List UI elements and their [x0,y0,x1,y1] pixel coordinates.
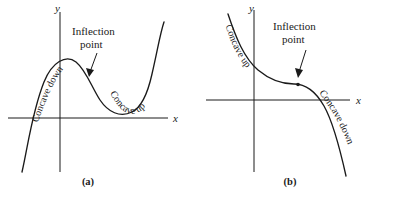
panel-a: x y Inflection point Concave down Concav… [0,0,197,199]
inflection-label-a-line2: point [80,38,103,50]
x-axis-label-a: x [172,112,178,124]
inflection-leader-a [90,53,97,72]
inflection-point-marker-b [296,83,300,87]
x-axis-label-b: x [355,94,361,106]
inflection-label-a-line1: Inflection [72,25,115,37]
panel-b: x y Inflection point Concave up Concave … [198,0,395,199]
inflection-label-b-line2: point [282,33,305,45]
y-axis-label-a: y [54,2,60,14]
panel-caption-b: (b) [284,176,297,188]
concave-up-label-b: Concave up [224,23,254,69]
figure-root: x y Inflection point Concave down Concav… [0,0,395,199]
concave-down-label-b: Concave down [317,87,356,145]
inflection-arrowhead-b [295,68,303,78]
inflection-leader-b [299,50,306,72]
y-axis-label-b: y [248,2,254,14]
panel-caption-a: (a) [82,176,95,188]
inflection-label-b-line1: Inflection [273,20,316,32]
concave-up-label-a: Concave up [108,89,147,116]
